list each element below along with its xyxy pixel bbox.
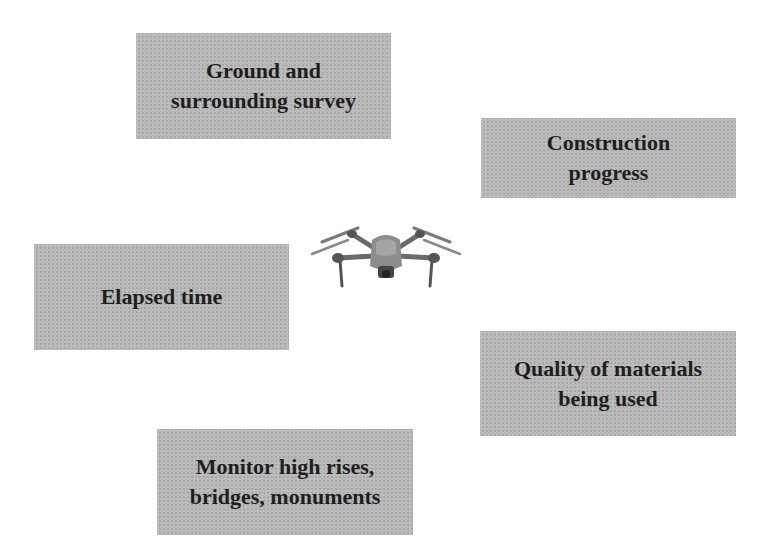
monitor-structures-label: Monitor high rises, bridges, monuments: [190, 452, 381, 512]
drone-icon: [308, 210, 464, 294]
construction-progress-box: Construction progress: [481, 118, 736, 198]
monitor-structures-box: Monitor high rises, bridges, monuments: [157, 429, 413, 535]
ground-survey-box: Ground and surrounding survey: [136, 33, 391, 139]
elapsed-time-label: Elapsed time: [101, 282, 223, 312]
construction-progress-label: Construction progress: [547, 128, 670, 188]
material-quality-box: Quality of materials being used: [480, 331, 736, 436]
elapsed-time-box: Elapsed time: [34, 244, 289, 350]
ground-survey-label: Ground and surrounding survey: [171, 56, 356, 116]
material-quality-label: Quality of materials being used: [514, 354, 702, 414]
